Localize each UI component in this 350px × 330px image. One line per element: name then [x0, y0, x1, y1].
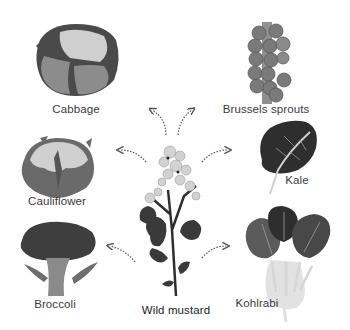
arrow-to-cauliflower [120, 150, 146, 162]
wild-mustard-illustration [140, 146, 202, 296]
arrows [110, 110, 228, 262]
label-broccoli: Broccoli [34, 298, 76, 310]
arrow-to-kohlrabi [202, 246, 226, 258]
label-kohlrabi: Kohlrabi [236, 297, 279, 309]
label-kale: Kale [285, 174, 308, 186]
cauliflower-illustration [22, 136, 94, 198]
label-cabbage: Cabbage [52, 103, 99, 115]
label-brussels-sprouts: Brussels sprouts [223, 103, 310, 115]
cabbage-illustration [36, 24, 119, 96]
illustration-canvas [0, 0, 350, 330]
arrow-to-kale [202, 150, 228, 162]
brussels-sprouts-illustration [248, 22, 291, 104]
arrow-to-broccoli [110, 246, 135, 262]
wild-mustard-derivatives-diagram: Cabbage Brussels sprouts Cauliflower Kal… [0, 0, 350, 330]
broccoli-illustration [21, 222, 98, 296]
label-wild-mustard: Wild mustard [142, 304, 210, 316]
label-cauliflower: Cauliflower [28, 195, 86, 207]
arrow-to-cabbage [152, 110, 166, 135]
arrow-to-brussels-sprouts [178, 110, 192, 135]
